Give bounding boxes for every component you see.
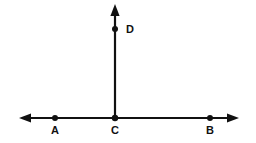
- point-d-dot: [112, 26, 118, 32]
- point-c-dot: [112, 115, 118, 121]
- line-ab-right-arrowhead: [227, 113, 239, 122]
- point-c-label: C: [107, 125, 123, 136]
- point-b-label: B: [202, 125, 218, 136]
- geometry-figure-canvas: A C B D: [0, 0, 256, 143]
- point-d-label: D: [126, 24, 134, 35]
- line-ab-left-arrowhead: [19, 113, 31, 122]
- geometry-figure-svg: [0, 0, 256, 143]
- point-a-dot: [52, 115, 58, 121]
- point-b-dot: [207, 115, 213, 121]
- point-a-label: A: [47, 125, 63, 136]
- ray-cd-arrowhead: [110, 4, 119, 16]
- ray-cd: [110, 4, 119, 119]
